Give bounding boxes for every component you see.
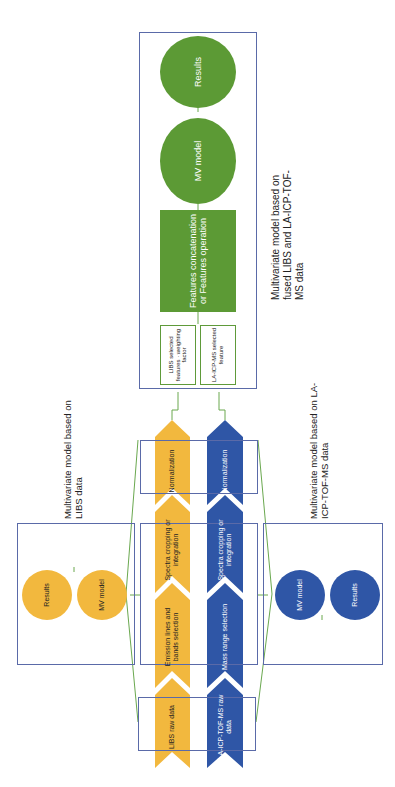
libs-model-caption: Multivariate model based on LIBS data: [62, 399, 85, 519]
icpms-mv-model-label: MV model: [285, 575, 315, 615]
libs-step-normalization: Normalization: [155, 436, 189, 506]
libs-selected-features-label: LIBS selected features · weighting facto…: [160, 325, 196, 385]
icpms-step-spectra-cropping: Spectra cropping or integration: [208, 515, 242, 585]
fusion-model-caption: Multivariate model based on fused LIBS a…: [270, 160, 306, 300]
icpms-model-caption: Multivariate model based on LA-ICP-TOF-M…: [308, 379, 331, 519]
icpms-results-label: Results: [345, 570, 365, 620]
icpms-selected-features-label: LA-ICP-MS selected feature: [200, 325, 236, 385]
libs-step-spectra-cropping: Spectra cropping or integration: [155, 515, 189, 585]
icpms-step-normalization: Normalization: [208, 436, 242, 506]
libs-step-emission-lines: Emission lines and bands selection: [155, 600, 189, 674]
icpms-step-raw-data: LA-ICP-TOF-MS raw data: [208, 692, 242, 762]
libs-results-label: Results: [37, 570, 57, 620]
fusion-results-label: Results: [188, 42, 208, 102]
fusion-mv-model-label: MV model: [188, 126, 208, 196]
icpms-step-mass-range: Mass range selection: [208, 602, 242, 672]
libs-mv-model-label: MV model: [87, 575, 117, 615]
features-operation-label: Features concatenation or Features opera…: [160, 210, 236, 312]
libs-step-raw-data: LIBS raw data: [155, 692, 189, 762]
